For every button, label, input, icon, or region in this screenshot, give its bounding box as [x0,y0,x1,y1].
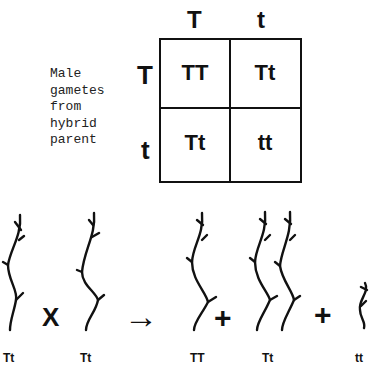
short-plant-icon [360,283,367,328]
parent-2-genotype: Tt [80,351,91,365]
plus-icon: + [214,301,232,335]
tall-plant-icon [275,212,300,330]
tall-plant-icon [3,215,24,330]
offspring-TT-genotype: TT [190,351,205,365]
arrow-icon: → [124,297,158,336]
offspring-Tt-genotype: Tt [262,351,273,365]
plus-icon: + [314,298,332,332]
tall-plant-icon [250,212,277,330]
parent-1-genotype: Tt [3,351,14,365]
tall-plant-icon [187,213,216,330]
offspring-tt-genotype: tt [355,351,363,365]
tall-plant-icon [77,213,104,330]
cross-symbol: X [42,302,59,333]
